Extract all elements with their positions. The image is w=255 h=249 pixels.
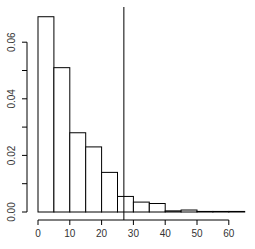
- histogram-bar: [213, 211, 229, 212]
- histogram-bar: [181, 210, 197, 212]
- histogram-bar: [86, 147, 102, 212]
- histogram-bar: [133, 202, 149, 212]
- y-tick-label: 0.04: [6, 89, 17, 109]
- histogram-bar: [38, 17, 54, 212]
- histogram-chart: 0.000.020.040.06 0102030405060: [0, 0, 255, 249]
- y-axis: 0.000.020.040.06: [6, 32, 27, 222]
- x-tick-label: 40: [160, 228, 172, 239]
- x-tick-label: 10: [64, 228, 76, 239]
- x-tick-label: 50: [191, 228, 203, 239]
- y-tick-label: 0.06: [6, 32, 17, 52]
- histogram-bar: [197, 211, 213, 212]
- y-tick-label: 0.02: [6, 145, 17, 165]
- histogram-bar: [118, 196, 134, 212]
- x-tick-label: 20: [96, 228, 108, 239]
- x-tick-label: 0: [35, 228, 41, 239]
- histogram-bar: [70, 133, 86, 212]
- histogram-bar: [165, 211, 181, 212]
- histogram-bar: [229, 211, 245, 212]
- histogram-bar: [149, 204, 165, 212]
- x-tick-label: 60: [223, 228, 235, 239]
- histogram-bar: [102, 172, 118, 212]
- x-axis: 0102030405060: [35, 220, 235, 239]
- x-tick-label: 30: [128, 228, 140, 239]
- y-tick-label: 0.00: [6, 202, 17, 222]
- histogram-bars: [38, 17, 245, 212]
- histogram-bar: [54, 68, 70, 212]
